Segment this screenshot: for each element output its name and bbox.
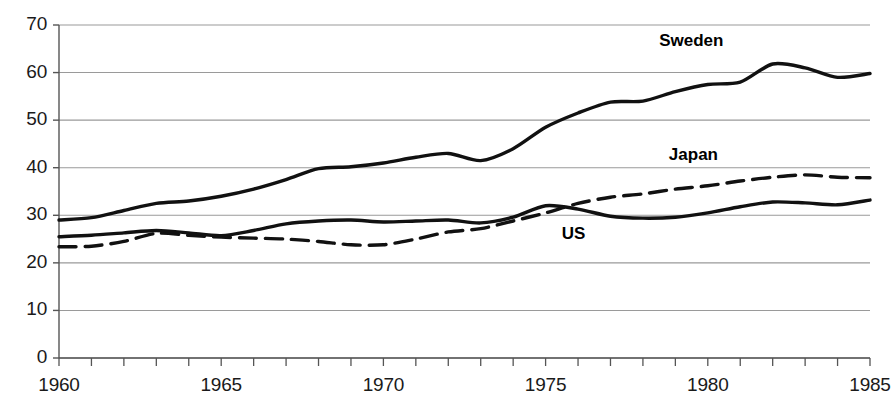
y-axis-label-30: 30 [1, 203, 47, 225]
series-line-japan [59, 175, 870, 247]
x-axis-label-1960: 1960 [27, 374, 91, 396]
x-axis-label-1970: 1970 [351, 374, 415, 396]
y-axis-label-70: 70 [1, 13, 47, 35]
series-line-sweden [59, 63, 870, 220]
x-axis-label-1965: 1965 [189, 374, 253, 396]
series-label-japan: Japan [669, 145, 718, 165]
x-axis-label-1985: 1985 [838, 374, 895, 396]
series-label-us: US [562, 224, 586, 244]
y-axis-label-10: 10 [1, 298, 47, 320]
y-axis-label-40: 40 [1, 156, 47, 178]
y-axis-label-60: 60 [1, 61, 47, 83]
y-axis-label-50: 50 [1, 108, 47, 130]
y-axis-label-20: 20 [1, 251, 47, 273]
series-line-us [59, 200, 870, 237]
y-axis-label-0: 0 [1, 346, 47, 368]
series-label-sweden: Sweden [659, 31, 723, 51]
x-axis-label-1975: 1975 [514, 374, 578, 396]
x-axis-label-1980: 1980 [676, 374, 740, 396]
